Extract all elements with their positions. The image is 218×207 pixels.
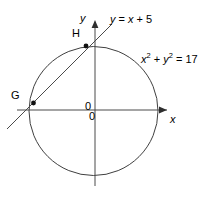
circle-eq-equals-17: = 17 [173,53,198,65]
math-figure-circle-line: y x 0 0 G H y = x + 5 x2 + y2 = 17 [0,0,218,207]
line-eq-equals: = [116,13,129,25]
line-y-equals-x-plus-5 [7,24,112,129]
x-axis-arrowhead-icon [159,107,167,114]
point-h-label: H [72,28,80,39]
origin-label-lower: 0 [89,111,95,122]
circle-eq-plus: + [151,53,164,65]
line-eq-plus-five: + 5 [134,13,153,25]
line-equation-label: y = x + 5 [110,14,152,25]
y-axis-arrowhead-icon [92,20,99,28]
point-h-marker [84,44,89,49]
point-g-marker [31,101,36,106]
circle-equation-label: x2 + y2 = 17 [141,52,198,65]
x-axis-label: x [170,114,176,125]
figure-canvas [0,0,218,207]
point-g-label: G [11,90,20,101]
y-axis-label: y [80,13,86,24]
